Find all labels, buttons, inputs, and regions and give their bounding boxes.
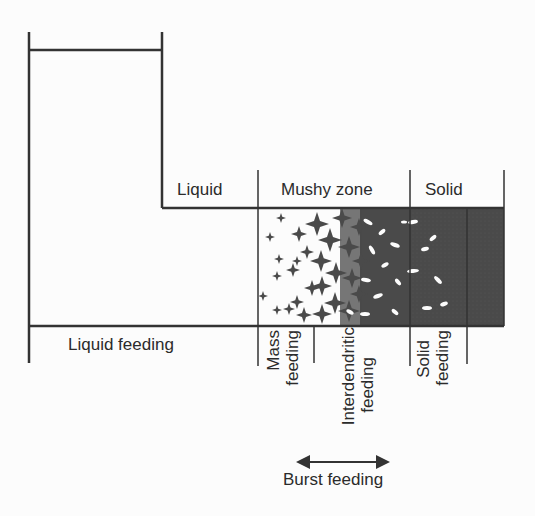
interdendritic-feeding-line1: Interdendritic [339, 327, 358, 455]
burst-feeding-arrow [296, 455, 390, 469]
mushy-zone-crystals [258, 208, 410, 326]
solid-feeding-line2: feeding [433, 330, 452, 410]
zone-label-solid: Solid [425, 180, 463, 200]
interdendritic-feeding-line2: feeding [358, 327, 377, 455]
zone-label-mushy: Mushy zone [281, 180, 373, 200]
mass-feeding-label: Mass feeding [264, 330, 302, 400]
solid-feeding-label: Solid feeding [414, 330, 452, 410]
liquid-feeding-label: Liquid feeding [68, 335, 174, 355]
solid-feeding-line1: Solid [414, 330, 433, 410]
mass-feeding-line2: feeding [283, 330, 302, 400]
casting-diagram [0, 0, 535, 516]
mass-feeding-line1: Mass [264, 330, 283, 400]
zone-label-liquid: Liquid [177, 180, 222, 200]
interdendritic-feeding-label: Interdendritic feeding [339, 327, 377, 455]
burst-feeding-label: Burst feeding [283, 470, 383, 490]
